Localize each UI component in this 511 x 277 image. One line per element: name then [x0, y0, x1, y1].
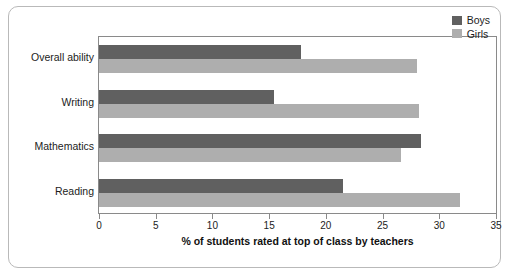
x-tick-label-25: 25	[377, 220, 388, 231]
x-tick-5	[156, 214, 157, 219]
chart-legend: BoysGirls	[452, 15, 490, 39]
x-tick-35	[496, 214, 497, 219]
legend-label-girls: Girls	[467, 29, 489, 40]
legend-label-boys: Boys	[467, 15, 490, 26]
category-label-overall-ability: Overall ability	[8, 51, 94, 63]
category-label-reading: Reading	[8, 185, 94, 197]
bar-boys-reading	[99, 179, 343, 193]
plot-area	[98, 36, 497, 214]
x-axis: 05101520253035	[98, 214, 497, 236]
x-tick-15	[269, 214, 270, 219]
x-tick-label-10: 10	[207, 220, 218, 231]
x-tick-10	[212, 214, 213, 219]
x-tick-label-20: 20	[320, 220, 331, 231]
bar-girls-reading	[99, 193, 460, 207]
x-tick-label-5: 5	[153, 220, 159, 231]
bar-girls-overall-ability	[99, 59, 417, 73]
x-tick-25	[383, 214, 384, 219]
x-tick-label-0: 0	[96, 220, 102, 231]
x-axis-title: % of students rated at top of class by t…	[98, 235, 497, 247]
bar-boys-writing	[99, 90, 274, 104]
x-tick-30	[439, 214, 440, 219]
legend-item-girls: Girls	[452, 29, 490, 40]
category-axis-labels: Overall abilityWritingMathematicsReading	[9, 36, 94, 214]
x-tick-label-35: 35	[490, 220, 501, 231]
x-tick-label-15: 15	[264, 220, 275, 231]
x-tick-label-30: 30	[434, 220, 445, 231]
legend-swatch-girls-icon	[452, 29, 462, 38]
category-label-writing: Writing	[8, 96, 94, 108]
legend-item-boys: Boys	[452, 15, 490, 26]
figure-frame: Overall abilityWritingMathematicsReading…	[8, 6, 501, 268]
x-tick-0	[99, 214, 100, 219]
bar-girls-writing	[99, 104, 419, 118]
legend-swatch-boys-icon	[452, 16, 462, 25]
bar-boys-overall-ability	[99, 45, 301, 59]
bar-girls-mathematics	[99, 148, 401, 162]
bar-boys-mathematics	[99, 134, 421, 148]
x-tick-20	[326, 214, 327, 219]
category-label-mathematics: Mathematics	[8, 140, 94, 152]
